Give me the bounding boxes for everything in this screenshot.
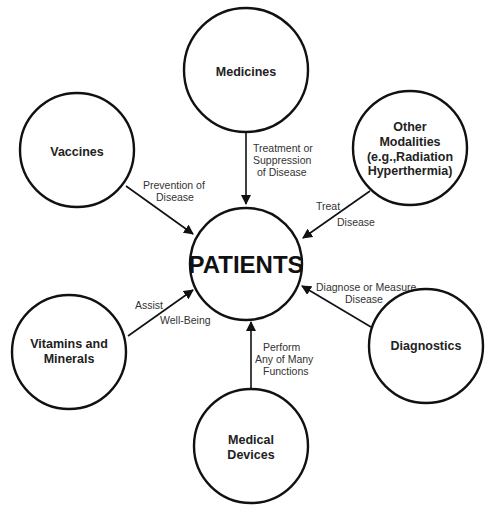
node-patients: PATIENTS <box>188 208 303 320</box>
arrow-vitamins-to-patients <box>128 290 193 336</box>
edge-label-line: Disease <box>345 293 383 305</box>
edge-label-line: Prevention of <box>143 179 205 191</box>
node-diagnostics: Diagnostics <box>369 289 483 403</box>
edge-label-line: Functions <box>263 365 309 377</box>
edge-label-line: Any of Many <box>255 353 314 365</box>
node-label: (e.g.,Radiation <box>367 150 453 164</box>
node-label: Medicines <box>216 65 276 79</box>
edge-other-modalities: Treat Disease <box>303 191 375 238</box>
node-label: Devices <box>227 448 274 462</box>
edge-vaccines: Prevention of Disease <box>126 179 205 234</box>
node-label: Diagnostics <box>391 339 462 353</box>
edge-label-line: Suppression <box>253 154 312 166</box>
node-label: Minerals <box>44 352 95 366</box>
edge-label-line: of Disease <box>257 166 307 178</box>
node-vitamins-minerals: Vitamins and Minerals <box>12 295 126 409</box>
node-label: Other <box>393 120 426 134</box>
node-label: Hyperthermia) <box>368 164 453 178</box>
edge-label-line: Treatment or <box>253 142 313 154</box>
edge-vitamins-minerals: Assist Well-Being <box>128 290 211 336</box>
edge-medicines: Treatment or Suppression of Disease <box>246 132 313 204</box>
edge-label-line: Perform <box>263 341 301 353</box>
node-medicines: Medicines <box>184 8 308 132</box>
node-label: Medical <box>228 433 274 447</box>
edge-label-line: Assist <box>135 299 163 311</box>
node-label: Vitamins and <box>30 337 108 351</box>
edge-label-line: Disease <box>156 191 194 203</box>
node-vaccines: Vaccines <box>20 93 134 207</box>
edge-medical-devices: Perform Any of Many Functions <box>251 322 314 388</box>
node-medical-devices: Medical Devices <box>194 389 308 503</box>
edge-label-line: Diagnose or Measure <box>316 281 417 293</box>
node-label: Modalities <box>379 135 440 149</box>
node-label: Vaccines <box>50 145 104 159</box>
patients-diagram: Treatment or Suppression of Disease Prev… <box>0 0 494 515</box>
node-other-modalities: Other Modalities (e.g.,Radiation Hyperth… <box>353 91 467 205</box>
center-label: PATIENTS <box>188 251 303 278</box>
edge-label-line: Disease <box>337 216 375 228</box>
edge-label-line: Treat <box>316 200 340 212</box>
arrow-other-modalities-to-patients <box>303 191 370 238</box>
edge-label-line: Well-Being <box>160 314 211 326</box>
